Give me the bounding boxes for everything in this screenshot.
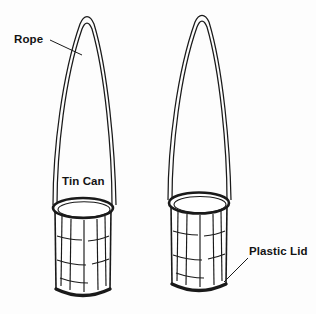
label-plastic-lid: Plastic Lid xyxy=(249,245,308,257)
left-can-left-edge xyxy=(55,209,56,289)
diagram-canvas: Rope Tin Can Plastic Lid xyxy=(0,0,316,314)
right-can-right-edge xyxy=(226,204,227,284)
right-can-body-fill xyxy=(171,203,227,289)
label-rope: Rope xyxy=(14,33,43,45)
right-can-plastic-lid-outer xyxy=(169,193,229,214)
rope-right-inner-strand xyxy=(172,21,227,200)
left-can-assembly xyxy=(53,17,116,296)
right-can-left-edge xyxy=(171,204,172,284)
left-can-body-fill xyxy=(55,208,111,294)
figure-illustration xyxy=(0,0,316,314)
plastic-lid-label-leader-line xyxy=(224,258,248,282)
label-tin-can: Tin Can xyxy=(62,175,105,187)
left-can-right-edge xyxy=(110,209,111,289)
right-can-assembly xyxy=(168,15,231,290)
